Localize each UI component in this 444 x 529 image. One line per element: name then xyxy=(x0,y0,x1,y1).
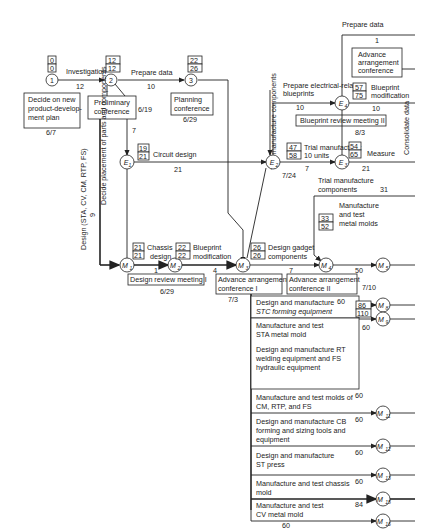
svg-text:12: 12 xyxy=(76,82,84,91)
svg-text:3: 3 xyxy=(246,265,249,271)
svg-text:12: 12 xyxy=(385,446,391,452)
time-box-E2: 47 58 xyxy=(287,143,301,160)
activity-circuit-design: Circuit design xyxy=(153,150,197,159)
time-box-E1: 19 21 xyxy=(138,144,149,161)
svg-text:modification: modification xyxy=(371,91,409,100)
svg-text:M: M xyxy=(378,316,384,323)
activity-block-cb: Design and manufacture CB forming and si… xyxy=(256,415,363,444)
svg-text:Manufacture and test molds of: Manufacture and test molds of xyxy=(256,393,353,402)
svg-text:Design and manufacture RT: Design and manufacture RT xyxy=(256,345,346,354)
svg-text:10: 10 xyxy=(372,104,380,113)
svg-text:7: 7 xyxy=(132,126,136,135)
svg-text:58: 58 xyxy=(289,151,297,160)
svg-text:Advance arrangement: Advance arrangement xyxy=(218,275,289,284)
svg-text:5: 5 xyxy=(386,265,389,271)
svg-text:modification: modification xyxy=(193,252,231,261)
time-box-E3: 54 65 xyxy=(349,142,361,159)
svg-text:M: M xyxy=(377,410,383,417)
svg-text:Advance arrangement: Advance arrangement xyxy=(289,275,360,284)
svg-text:9: 9 xyxy=(88,213,97,217)
svg-text:M: M xyxy=(122,262,128,269)
svg-text:60: 60 xyxy=(355,448,363,457)
activity-block-st: Design and manufacture ST press 60 xyxy=(256,448,363,469)
activity-consolidate-data: Consolidate data xyxy=(402,101,411,155)
svg-text:and test: and test xyxy=(339,210,365,219)
activity-prepare-data: Prepare data xyxy=(131,68,173,77)
time-box-M1: 21 21 xyxy=(133,243,144,260)
svg-text:Manufacture and test: Manufacture and test xyxy=(256,501,324,510)
time-box-n3: 22 26 xyxy=(188,56,202,73)
activity-design-sta: Design (STA, CV, CM, RTP, FS) xyxy=(79,148,88,250)
svg-text:conference II: conference II xyxy=(289,284,331,293)
svg-text:M: M xyxy=(377,472,383,479)
svg-text:1: 1 xyxy=(375,36,379,45)
svg-text:M: M xyxy=(238,262,244,269)
svg-text:13: 13 xyxy=(385,475,391,481)
activity-chassis-design: Chassis xyxy=(147,243,173,252)
svg-text:Design and manufacture: Design and manufacture xyxy=(256,298,334,307)
svg-text:52: 52 xyxy=(321,222,329,231)
svg-text:E: E xyxy=(339,159,344,166)
svg-text:7: 7 xyxy=(305,164,309,173)
svg-text:ment plan: ment plan xyxy=(28,113,60,122)
svg-text:CV metal mold: CV metal mold xyxy=(256,510,303,519)
svg-text:60: 60 xyxy=(282,521,290,529)
svg-text:12: 12 xyxy=(108,64,116,73)
svg-text:CM, RTP, and FS: CM, RTP, and FS xyxy=(256,402,312,411)
svg-text:6/7: 6/7 xyxy=(46,128,56,137)
svg-text:1: 1 xyxy=(130,265,133,271)
svg-text:1: 1 xyxy=(50,77,54,84)
milestone-advance-arrangement-3: Advance arrangement conference xyxy=(352,48,402,77)
activity-design-gadget: Design gadget xyxy=(268,243,314,252)
svg-text:blueprints: blueprints xyxy=(283,89,315,98)
svg-text:STC forming equipment: STC forming equipment xyxy=(256,307,333,316)
svg-text:M: M xyxy=(378,302,384,309)
time-box-E4: 57 75 xyxy=(353,83,366,100)
svg-text:7/24: 7/24 xyxy=(282,171,296,180)
svg-text:21: 21 xyxy=(362,164,370,173)
svg-text:9: 9 xyxy=(386,319,389,325)
svg-text:2: 2 xyxy=(275,162,279,168)
time-box-M3: 26 26 xyxy=(251,243,265,260)
svg-text:E: E xyxy=(339,100,344,107)
activity-trial-components: Trial manufacture xyxy=(318,176,374,185)
milestone-preliminary-conference: Preliminary conference 6/19 xyxy=(88,96,152,119)
svg-text:2: 2 xyxy=(109,77,113,84)
svg-text:7/10: 7/10 xyxy=(362,283,376,292)
pert-network-diagram: 0 0 12 12 22 26 Investigation 12 Prepare… xyxy=(0,0,444,529)
svg-text:15: 15 xyxy=(385,499,391,505)
svg-text:components: components xyxy=(318,185,358,194)
svg-text:8/3: 8/3 xyxy=(355,128,365,137)
svg-text:M: M xyxy=(377,496,383,503)
svg-text:conference: conference xyxy=(174,104,210,113)
activity-measure: Measure xyxy=(367,149,395,158)
svg-text:mold: mold xyxy=(256,488,272,497)
svg-text:0: 0 xyxy=(50,64,54,73)
svg-text:7/3: 7/3 xyxy=(228,295,238,304)
svg-text:metal molds: metal molds xyxy=(339,219,378,228)
time-box-n2: 12 12 xyxy=(106,56,120,73)
activity-block-cm: Manufacture and test molds of CM, RTP, a… xyxy=(256,391,363,411)
svg-text:26: 26 xyxy=(253,251,261,260)
svg-text:11: 11 xyxy=(385,413,390,419)
svg-text:components: components xyxy=(268,252,308,261)
svg-text:8: 8 xyxy=(386,305,389,311)
svg-text:Design and manufacture: Design and manufacture xyxy=(256,451,334,460)
svg-text:conference I: conference I xyxy=(218,284,258,293)
svg-text:60: 60 xyxy=(355,415,363,424)
svg-text:hydraulic equipment: hydraulic equipment xyxy=(256,363,320,372)
svg-text:4: 4 xyxy=(345,103,348,109)
svg-text:ST press: ST press xyxy=(256,460,285,469)
svg-text:60: 60 xyxy=(337,297,345,306)
svg-text:Manufacture and test: Manufacture and test xyxy=(256,321,324,330)
svg-text:60: 60 xyxy=(355,477,363,486)
svg-text:3: 3 xyxy=(345,162,348,168)
svg-text:M: M xyxy=(170,262,176,269)
svg-text:6/29: 6/29 xyxy=(183,115,197,124)
svg-text:M: M xyxy=(377,518,383,525)
svg-text:forming and sizing tools and: forming and sizing tools and xyxy=(256,426,346,435)
svg-text:75: 75 xyxy=(355,91,363,100)
svg-text:10 units: 10 units xyxy=(304,151,330,160)
activity-decide-placement: Decide placement of parts and components xyxy=(99,66,108,205)
svg-text:21: 21 xyxy=(134,251,142,260)
